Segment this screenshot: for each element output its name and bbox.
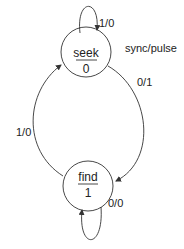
transition-find-to-seek — [33, 65, 63, 176]
state-find[interactable]: find 1 — [63, 161, 113, 211]
label-seek-to-find: 0/1 — [137, 76, 152, 88]
transition-find-self — [82, 207, 102, 240]
state-seek[interactable]: seek 0 — [61, 27, 111, 77]
state-seek-name: seek — [73, 46, 99, 60]
label-find-to-seek: 1/0 — [16, 126, 31, 138]
state-diagram: seek 0 find 1 1/0 0/1 1/0 0/0 sync/pulse — [0, 0, 184, 249]
state-seek-output: 0 — [83, 62, 90, 76]
diagram-title: sync/pulse — [125, 42, 177, 54]
label-find-self: 0/0 — [108, 197, 123, 209]
state-find-output: 1 — [85, 186, 92, 200]
state-find-name: find — [78, 170, 97, 184]
label-seek-self: 1/0 — [99, 17, 114, 29]
